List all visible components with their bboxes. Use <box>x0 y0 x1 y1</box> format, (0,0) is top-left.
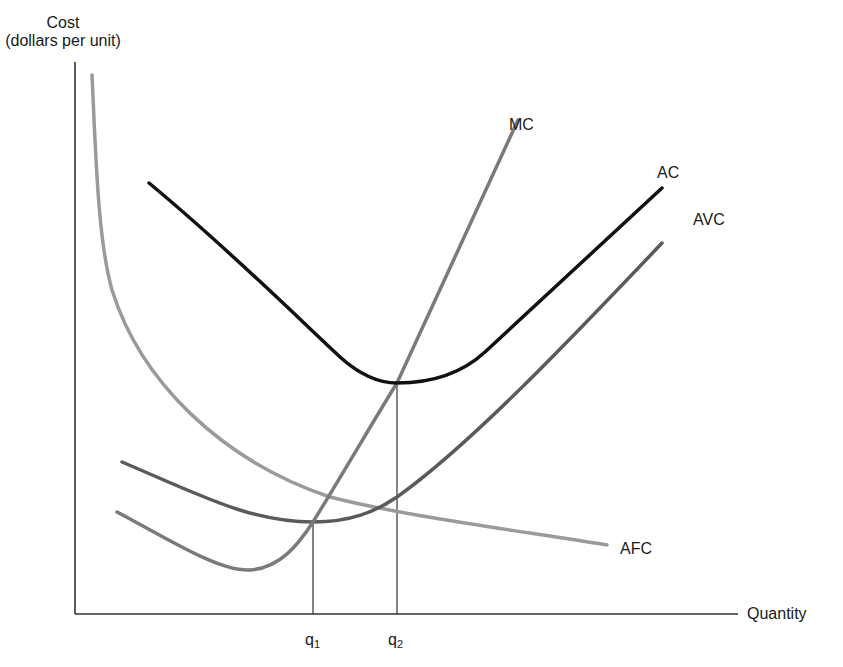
tick-q2: q2 <box>388 632 403 650</box>
avc-label: AVC <box>693 212 725 228</box>
ac-curve <box>149 183 662 383</box>
y-axis-title: Cost (dollars per unit) <box>0 14 126 50</box>
ac-label: AC <box>657 165 679 181</box>
afc-label: AFC <box>620 541 652 557</box>
cost-curves-chart <box>0 0 843 667</box>
tick-q1-subscript: 1 <box>314 638 320 650</box>
y-axis-title-main: Cost <box>0 14 126 32</box>
tick-q2-subscript: 2 <box>397 638 403 650</box>
tick-q2-label: q <box>388 631 397 648</box>
mc-label: MC <box>509 117 534 133</box>
y-axis-title-sub: (dollars per unit) <box>0 32 126 50</box>
tick-q1-label: q <box>305 631 314 648</box>
tick-q1: q1 <box>305 632 320 650</box>
x-axis-title: Quantity <box>747 606 807 622</box>
mc-curve <box>117 120 518 570</box>
